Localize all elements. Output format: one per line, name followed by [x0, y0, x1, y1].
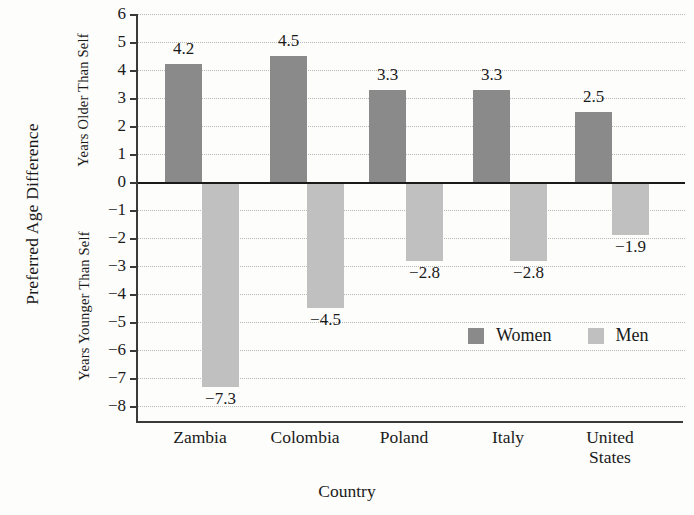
bar-men-zambia	[202, 182, 239, 387]
x-tick-label: Italy	[492, 428, 524, 448]
y-tick-mark	[130, 126, 138, 128]
y-tick-label: 0	[118, 172, 127, 192]
y-tick-label: −4	[108, 284, 126, 304]
bar-value-label: 3.3	[377, 65, 398, 85]
y-tick-label: 5	[118, 32, 127, 52]
x-tick-label: United States	[586, 428, 634, 467]
bar-value-label: 4.2	[173, 39, 194, 59]
y-tick-mark	[130, 42, 138, 44]
bar-men-colombia	[307, 182, 344, 308]
legend-item-women: Women	[468, 325, 552, 346]
y-tick-label: −8	[108, 396, 126, 416]
y-tick-label: 6	[118, 4, 127, 24]
y-tick-label: 3	[118, 88, 127, 108]
x-axis-title: Country	[0, 481, 694, 502]
bar-value-label: 4.5	[278, 31, 299, 51]
y-tick-label: −2	[108, 228, 126, 248]
y-tick-label: −3	[108, 256, 126, 276]
bar-value-label: −7.3	[205, 389, 236, 409]
bar-men-italy	[510, 182, 547, 260]
legend-swatch-women-icon	[468, 328, 484, 344]
bar-value-label: −2.8	[409, 263, 440, 283]
plot-area: 6543210−1−2−3−4−5−6−7−8 4.2−7.34.5−4.53.…	[136, 14, 683, 423]
bar-value-label: −1.9	[615, 237, 646, 257]
y-tick-mark	[130, 98, 138, 100]
y-tick-mark	[130, 294, 138, 296]
y-tick-label: 2	[118, 116, 127, 136]
y-tick-mark	[130, 154, 138, 156]
bar-chart: Preferred Age Difference Years Older Tha…	[0, 0, 694, 515]
legend: Women Men	[468, 325, 649, 346]
bar-women-colombia	[270, 56, 307, 182]
x-tick-label: Colombia	[270, 428, 339, 448]
y-tick-label: −6	[108, 340, 126, 360]
zero-baseline	[138, 182, 685, 184]
bar-men-united-states	[612, 182, 649, 235]
bar-men-poland	[406, 182, 443, 260]
y-tick-mark	[130, 266, 138, 268]
bar-value-label: 3.3	[481, 65, 502, 85]
y-tick-mark	[130, 70, 138, 72]
legend-swatch-men-icon	[588, 328, 604, 344]
y-axis-upper-label: Years Older Than Self	[75, 5, 95, 195]
y-tick-mark	[130, 238, 138, 240]
y-tick-label: −5	[108, 312, 126, 332]
x-tick-label: Zambia	[173, 428, 226, 448]
legend-label-men: Men	[616, 325, 649, 346]
bar-value-label: −2.8	[513, 263, 544, 283]
y-tick-mark	[130, 406, 138, 408]
gridline	[138, 14, 685, 15]
bar-women-united-states	[575, 112, 612, 182]
gridline	[138, 42, 685, 43]
y-tick-mark	[130, 322, 138, 324]
y-tick-mark	[130, 182, 138, 184]
y-axis-lower-label: Years Younger Than Self	[76, 199, 96, 414]
x-tick-label: Poland	[380, 428, 429, 448]
bar-women-poland	[369, 90, 406, 182]
y-tick-label: 1	[118, 144, 127, 164]
y-tick-mark	[130, 14, 138, 16]
legend-item-men: Men	[588, 325, 649, 346]
y-tick-label: 4	[118, 60, 127, 80]
bar-value-label: 2.5	[583, 87, 604, 107]
y-axis-title: Preferred Age Difference	[22, 89, 44, 339]
legend-label-women: Women	[496, 325, 552, 346]
bar-women-italy	[473, 90, 510, 182]
y-tick-mark	[130, 210, 138, 212]
y-tick-label: −7	[108, 368, 126, 388]
y-tick-mark	[130, 350, 138, 352]
bar-value-label: −4.5	[310, 310, 341, 330]
gridline	[138, 70, 685, 71]
bar-women-zambia	[165, 64, 202, 182]
y-tick-mark	[130, 378, 138, 380]
y-tick-label: −1	[108, 200, 126, 220]
